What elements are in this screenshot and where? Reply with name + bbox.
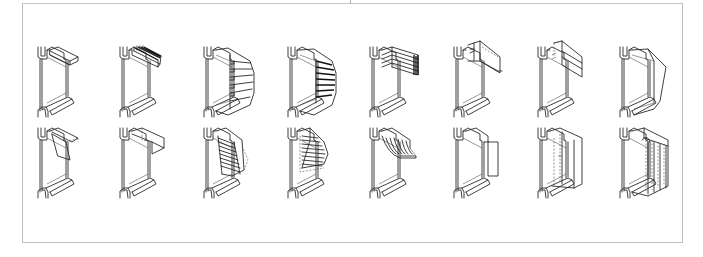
figure-stacked-slats: [370, 47, 418, 117]
figure-louvered-overhang: [120, 46, 161, 117]
figure-roller-screen: [538, 128, 582, 198]
figure-hood: [620, 47, 666, 117]
figure-angled-fins: [288, 47, 336, 117]
figure-curved-awning: [370, 128, 416, 198]
figure-venetian-blind: [204, 128, 248, 198]
figure-side-screen: [454, 128, 498, 198]
figure-vertical-louvres: [620, 128, 668, 198]
figure-awning-panel: [120, 128, 164, 198]
figure-vertical-fins: [204, 47, 254, 117]
figure-folding-awning: [288, 128, 328, 198]
figure-hinged-panel: [38, 128, 78, 198]
figure-fixed-overhang: [38, 47, 78, 117]
figure-sliding-panel: [454, 41, 502, 117]
figure-drop-panel: [538, 41, 582, 117]
shading-devices-diagram: [0, 0, 703, 257]
